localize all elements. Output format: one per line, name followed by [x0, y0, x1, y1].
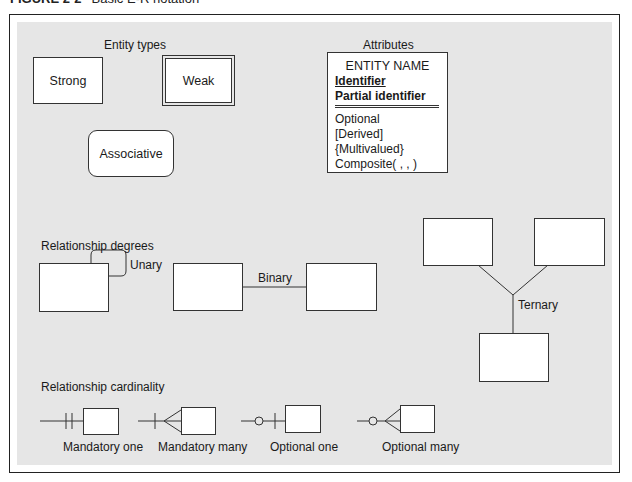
- ternary-line-right: [513, 265, 548, 295]
- unary-label: Unary: [130, 258, 162, 272]
- optional-one-label: Optional one: [270, 440, 338, 454]
- binary-entity-box-left: [173, 263, 243, 311]
- optional-many-entity-box: [400, 405, 435, 433]
- mandatory-one-entity-box: [83, 408, 119, 435]
- mandatory-one-label: Mandatory one: [63, 440, 143, 454]
- mandatory-many-entity-box: [181, 407, 216, 435]
- ternary-entity-box-right: [534, 218, 605, 266]
- binary-label: Binary: [258, 271, 292, 285]
- optional-many-label: Optional many: [382, 440, 459, 454]
- mandatory-many-label: Mandatory many: [158, 440, 247, 454]
- ternary-label: Ternary: [518, 298, 558, 312]
- ternary-line-left: [478, 265, 513, 295]
- ternary-entity-box-left: [423, 218, 493, 266]
- relationship-degrees-heading: Relationship degrees: [41, 239, 154, 253]
- optional-one-entity-box: [285, 405, 321, 433]
- unary-entity-box: [39, 263, 109, 312]
- relationship-cardinality-heading: Relationship cardinality: [41, 380, 164, 394]
- ternary-entity-box-bottom: [479, 333, 549, 382]
- binary-entity-box-right: [306, 263, 377, 311]
